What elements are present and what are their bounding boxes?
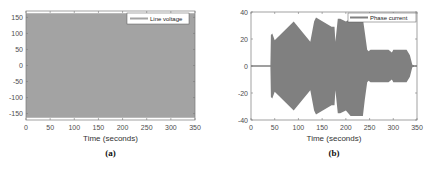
x-tick-label: 150 <box>316 124 328 131</box>
x-tick-label: 0 <box>24 124 28 131</box>
y-tick-label: -100 <box>9 94 23 101</box>
y-tick-label: 0 <box>244 63 248 70</box>
y-tick-label: 100 <box>11 30 23 37</box>
figure: 050100150200250300350 150100500-50-100-1… <box>0 0 432 169</box>
y-tick-label: -40 <box>238 117 248 124</box>
x-tick-label: 350 <box>189 124 201 131</box>
x-tick-label: 50 <box>46 124 54 131</box>
x-tick-label: 200 <box>117 124 129 131</box>
x-tick-label: 100 <box>293 124 305 131</box>
legend: Line voltage <box>127 13 189 24</box>
legend-label: Line voltage <box>150 16 183 22</box>
legend-label: Phase current <box>370 15 408 21</box>
x-tick-label: 150 <box>93 124 105 131</box>
x-tick-label: 200 <box>340 124 352 131</box>
y-tick-label: 20 <box>240 36 248 43</box>
y-tick-label: 150 <box>11 14 23 21</box>
x-tick-label: 50 <box>271 124 279 131</box>
x-tick-label: 0 <box>249 124 253 131</box>
x-tick-label: 300 <box>165 124 177 131</box>
x-axis-label: Time (seconds) <box>307 134 362 143</box>
line-voltage-series <box>26 13 195 118</box>
x-axis-label: Time (seconds) <box>83 134 138 143</box>
y-tick-label: -150 <box>9 110 23 117</box>
line-voltage-chart: 050100150200250300350 150100500-50-100-1… <box>9 11 201 158</box>
panel-caption: (b) <box>329 148 340 158</box>
y-tick-label: 40 <box>240 9 248 16</box>
legend: Phase current <box>348 13 416 22</box>
x-tick-label: 250 <box>141 124 153 131</box>
y-tick-label: 0 <box>19 62 23 69</box>
x-tick-label: 350 <box>411 124 423 131</box>
x-tick-label: 250 <box>364 124 376 131</box>
x-tick-label: 100 <box>68 124 80 131</box>
phase-current-chart: 050100150200250300350 40200-20-40 Phase … <box>238 9 423 159</box>
panel-caption: (a) <box>105 148 116 158</box>
x-tick-label: 300 <box>387 124 399 131</box>
y-tick-label: -20 <box>238 90 248 97</box>
y-tick-label: 50 <box>15 46 23 53</box>
y-tick-label: -50 <box>13 78 23 85</box>
